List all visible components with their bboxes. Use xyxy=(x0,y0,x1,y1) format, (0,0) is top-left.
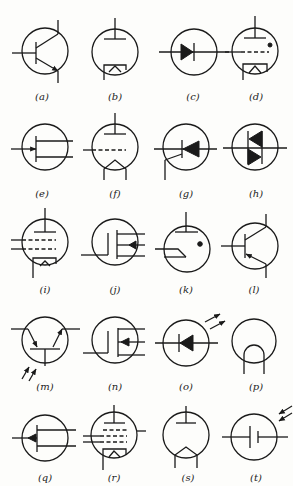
label-n: (n) xyxy=(108,381,122,392)
label-g: (g) xyxy=(179,188,193,199)
label-s: (s) xyxy=(182,472,195,483)
p-jfet-icon xyxy=(12,415,76,461)
label-e: (e) xyxy=(35,188,49,199)
lamp-icon xyxy=(232,319,276,374)
label-l: (l) xyxy=(248,284,259,295)
npn-transistor-icon xyxy=(12,20,68,83)
label-d: (d) xyxy=(249,91,263,102)
label-h: (h) xyxy=(249,188,263,199)
diode-icon xyxy=(159,29,229,75)
p-mosfet-icon xyxy=(83,317,145,363)
triode-tube-icon xyxy=(83,113,138,180)
label-k: (k) xyxy=(179,284,193,295)
triac-icon xyxy=(223,124,287,170)
label-p: (p) xyxy=(249,381,263,392)
label-c: (c) xyxy=(186,91,199,102)
n-mosfet-icon xyxy=(81,219,145,265)
scr-icon xyxy=(154,124,217,180)
label-r: (r) xyxy=(108,472,121,483)
gas-tube-icon xyxy=(155,212,210,272)
n-jfet-icon xyxy=(11,124,73,170)
photocell-icon xyxy=(222,406,292,460)
pnp-transistor-icon xyxy=(221,214,278,278)
phototransistor-icon xyxy=(11,317,80,381)
thyratron-icon xyxy=(225,16,278,80)
label-f: (f) xyxy=(109,188,121,199)
label-b: (b) xyxy=(108,91,122,102)
label-j: (j) xyxy=(110,284,121,295)
pentode-tube-icon xyxy=(11,208,68,278)
label-a: (a) xyxy=(35,91,49,102)
directly-heated-tube-icon xyxy=(163,406,209,468)
pentode-multigrid-icon xyxy=(83,405,146,470)
label-q: (q) xyxy=(38,472,52,483)
label-o: (o) xyxy=(179,381,193,392)
label-t: (t) xyxy=(250,472,262,483)
symbol-figure xyxy=(0,0,293,486)
label-m: (m) xyxy=(36,381,53,392)
led-icon xyxy=(155,314,225,366)
label-i: (i) xyxy=(39,284,50,295)
diode-tube-icon xyxy=(92,18,138,80)
